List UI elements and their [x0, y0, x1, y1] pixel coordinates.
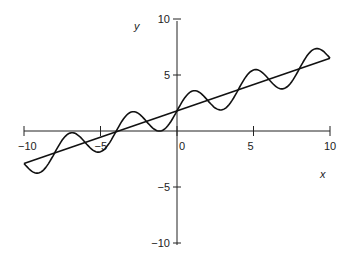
svg-text:5: 5	[248, 140, 254, 152]
svg-text:−10: −10	[18, 140, 37, 152]
svg-text:0: 0	[179, 140, 185, 152]
svg-text:−5: −5	[157, 181, 170, 193]
svg-text:−5: −5	[95, 140, 108, 152]
y-axis-label: y	[133, 20, 141, 32]
svg-text:10: 10	[324, 140, 336, 152]
svg-text:−10: −10	[151, 237, 170, 249]
x-axis-label: x	[319, 168, 326, 180]
svg-text:10: 10	[158, 13, 170, 25]
svg-text:5: 5	[164, 69, 170, 81]
chart: −10−50510105−5−10 y x	[0, 0, 348, 263]
